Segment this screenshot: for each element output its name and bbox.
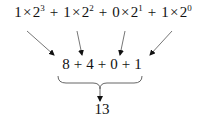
arrow-icon (150, 31, 172, 55)
result-value: 13 (0, 101, 204, 118)
brace-icon (58, 76, 142, 89)
plus-sign: + (118, 56, 134, 72)
partial-values: 8+4+0+1 (0, 56, 204, 73)
arrow-icon (120, 31, 125, 55)
plus-sign: + (70, 56, 86, 72)
value: 8 (62, 56, 70, 72)
plus-sign: + (94, 56, 110, 72)
value: 0 (110, 56, 118, 72)
arrow-icon (77, 31, 82, 55)
arrow-icon (27, 31, 54, 55)
value: 4 (86, 56, 94, 72)
value: 1 (134, 56, 142, 72)
